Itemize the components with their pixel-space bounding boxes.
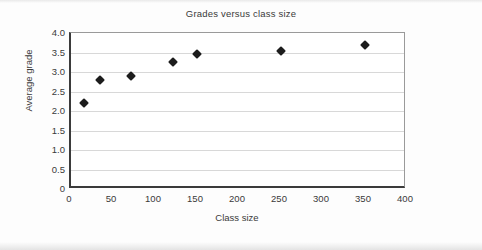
gridline <box>71 72 404 73</box>
page-edge-top <box>0 0 482 3</box>
x-axis-tick-label: 350 <box>343 193 383 204</box>
data-point <box>95 75 105 85</box>
y-axis-tick-label: 2.0 <box>35 105 65 116</box>
y-axis-tick-label: 0.5 <box>35 163 65 174</box>
gridline <box>71 92 404 93</box>
x-axis-tick-labels: 050100150200250300350400 <box>69 193 405 207</box>
chart-figure: Grades versus class size 00.51.01.52.02.… <box>0 0 482 250</box>
gridline <box>71 170 404 171</box>
gridline <box>71 53 404 54</box>
data-point <box>169 57 179 67</box>
y-axis-tick-label: 0 <box>35 183 65 194</box>
x-axis-tick-label: 150 <box>175 193 215 204</box>
plot-area <box>69 32 405 188</box>
y-axis-tick-label: 3.5 <box>35 46 65 57</box>
x-axis-tick-label: 50 <box>91 193 131 204</box>
y-axis-tick-label: 4.0 <box>35 27 65 38</box>
data-point <box>276 46 286 56</box>
y-axis-tick-label: 3.0 <box>35 66 65 77</box>
y-axis-tick-labels: 00.51.01.52.02.53.03.54.0 <box>31 32 65 188</box>
y-axis-title: Average grade <box>23 36 34 126</box>
x-axis-tick-label: 200 <box>217 193 257 204</box>
x-axis-title: Class size <box>69 212 405 223</box>
data-point <box>360 40 370 50</box>
chart-title: Grades versus class size <box>0 8 482 19</box>
gridline <box>71 131 404 132</box>
x-axis-tick-label: 100 <box>133 193 173 204</box>
gridline <box>71 111 404 112</box>
x-axis-tick-label: 0 <box>49 193 89 204</box>
data-point <box>79 98 89 108</box>
x-axis-tick-label: 300 <box>301 193 341 204</box>
x-axis-tick-label: 250 <box>259 193 299 204</box>
y-axis-tick-label: 2.5 <box>35 85 65 96</box>
data-point <box>192 49 202 59</box>
page-edge-bottom <box>0 242 482 250</box>
gridline <box>71 150 404 151</box>
x-axis-tick-label: 400 <box>385 193 425 204</box>
y-axis-tick-label: 1.5 <box>35 124 65 135</box>
y-axis-tick-label: 1.0 <box>35 144 65 155</box>
